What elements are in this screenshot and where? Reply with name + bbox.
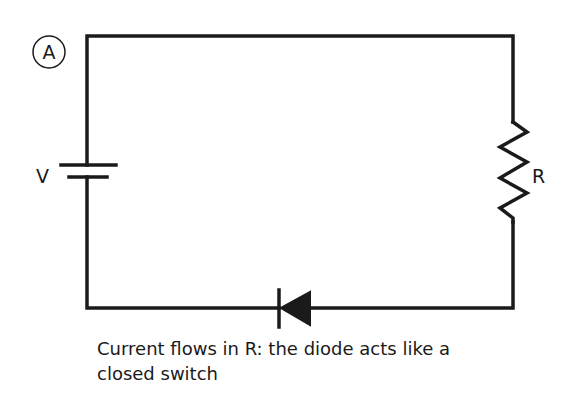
diode-triangle	[281, 292, 310, 325]
caption: Current flows in R: the diode acts like …	[97, 336, 557, 386]
resistor	[500, 122, 527, 222]
svg-text:A: A	[43, 41, 56, 63]
caption-line-2: closed switch	[97, 361, 557, 386]
resistor-label: R	[532, 165, 545, 187]
wire-right-bottom	[311, 222, 513, 308]
wire-bottom-left	[87, 177, 279, 308]
caption-line-1: Current flows in R: the diode acts like …	[97, 336, 557, 361]
battery-label: V	[36, 165, 49, 187]
wire-left-top	[87, 36, 513, 165]
panel-label: A	[33, 36, 65, 68]
